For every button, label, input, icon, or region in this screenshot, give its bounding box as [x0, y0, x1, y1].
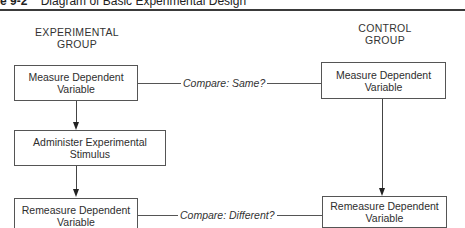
- arrow-down-icon: [73, 122, 79, 130]
- arrow-down-icon: [73, 189, 79, 197]
- control-group-title: CONTROL GROUP: [335, 22, 435, 46]
- exp-administer-line2: Stimulus: [33, 148, 147, 160]
- exp-measure-line2: Variable: [28, 83, 123, 95]
- exp-arrow-2-shaft: [76, 166, 77, 190]
- exp-measure-box: Measure Dependent Variable: [14, 65, 138, 101]
- ctrl-remeasure-line2: Variable: [330, 212, 439, 224]
- arrow-down-icon: [379, 188, 385, 196]
- figure-caption: e 9-2 Diagram of Basic Experimental Desi…: [0, 0, 246, 8]
- experimental-title-line2: GROUP: [22, 38, 132, 50]
- ctrl-arrow-shaft: [382, 99, 383, 189]
- experimental-group-title: EXPERIMENTAL GROUP: [22, 26, 132, 50]
- ctrl-remeasure-box: Remeasure Dependent Variable: [322, 196, 447, 228]
- figure-title: Diagram of Basic Experimental Design: [41, 0, 246, 8]
- caption-rule: [0, 9, 465, 11]
- ctrl-remeasure-line1: Remeasure Dependent: [330, 200, 439, 212]
- compare-same-label: Compare: Same?: [181, 77, 267, 89]
- control-title-line1: CONTROL: [335, 22, 435, 34]
- exp-arrow-1-shaft: [76, 101, 77, 123]
- exp-administer-line1: Administer Experimental: [33, 136, 147, 148]
- ctrl-measure-box: Measure Dependent Variable: [321, 62, 446, 99]
- control-title-line2: GROUP: [335, 34, 435, 46]
- exp-remeasure-line2: Variable: [22, 216, 131, 228]
- exp-measure-line1: Measure Dependent: [28, 71, 123, 83]
- experimental-title-line1: EXPERIMENTAL: [22, 26, 132, 38]
- exp-remeasure-box: Remeasure Dependent Variable: [14, 198, 138, 228]
- ctrl-measure-line1: Measure Dependent: [336, 69, 431, 81]
- compare-different-label: Compare: Different?: [178, 209, 277, 221]
- ctrl-measure-line2: Variable: [336, 81, 431, 93]
- figure-number: e 9-2: [0, 0, 27, 8]
- exp-administer-box: Administer Experimental Stimulus: [14, 130, 166, 166]
- exp-remeasure-line1: Remeasure Dependent: [22, 204, 131, 216]
